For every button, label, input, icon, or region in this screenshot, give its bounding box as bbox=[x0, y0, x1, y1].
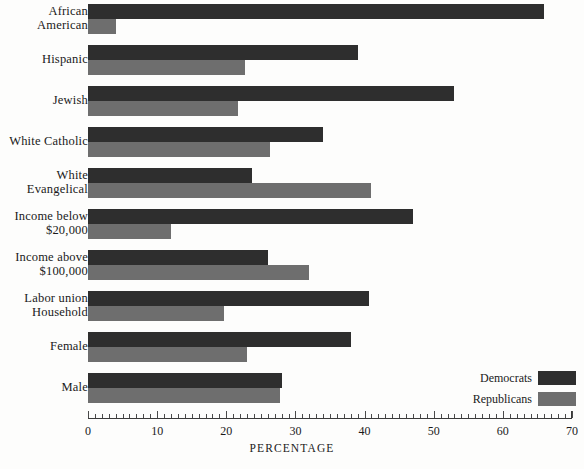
axis-tick-minor bbox=[475, 414, 476, 418]
x-axis: 010203040506070 bbox=[88, 418, 572, 419]
axis-tick-minor bbox=[109, 414, 110, 418]
bar-republicans bbox=[88, 224, 171, 239]
axis-tick-minor bbox=[496, 414, 497, 418]
bar-republicans bbox=[88, 388, 280, 403]
axis-tick-minor bbox=[468, 414, 469, 418]
bar-republicans bbox=[88, 306, 224, 321]
axis-tick-minor bbox=[544, 414, 545, 418]
axis-tick-minor bbox=[268, 414, 269, 418]
axis-tick-minor bbox=[385, 414, 386, 418]
axis-tick-minor bbox=[95, 414, 96, 418]
bar-democrats bbox=[88, 86, 454, 101]
category-label: Labor union Household bbox=[0, 291, 88, 319]
bar-democrats bbox=[88, 332, 351, 347]
category-row: Income above $100,000 bbox=[0, 249, 584, 285]
axis-tick-minor bbox=[171, 414, 172, 418]
axis-tick-minor bbox=[240, 414, 241, 418]
axis-tick-minor bbox=[517, 414, 518, 418]
category-label: Income above $100,000 bbox=[0, 250, 88, 278]
axis-tick-label: 70 bbox=[566, 424, 578, 439]
bar-republicans bbox=[88, 347, 247, 362]
axis-tick-major bbox=[365, 411, 366, 418]
axis-tick-minor bbox=[420, 414, 421, 418]
axis-tick-minor bbox=[192, 414, 193, 418]
bar-democrats bbox=[88, 45, 358, 60]
axis-tick-minor bbox=[212, 414, 213, 418]
legend-item[interactable]: Democrats bbox=[452, 370, 576, 388]
bar-democrats bbox=[88, 373, 282, 388]
axis-tick-minor bbox=[233, 414, 234, 418]
axis-tick-minor bbox=[102, 414, 103, 418]
axis-tick-minor bbox=[123, 414, 124, 418]
axis-tick-minor bbox=[489, 414, 490, 418]
axis-tick-major bbox=[157, 411, 158, 418]
axis-tick-major bbox=[503, 411, 504, 418]
axis-tick-minor bbox=[378, 414, 379, 418]
axis-tick-minor bbox=[461, 414, 462, 418]
axis-tick-major bbox=[295, 411, 296, 418]
axis-tick-minor bbox=[358, 414, 359, 418]
category-label: Female bbox=[0, 339, 88, 353]
axis-tick-minor bbox=[344, 414, 345, 418]
axis-tick-minor bbox=[323, 414, 324, 418]
axis-tick-minor bbox=[399, 414, 400, 418]
x-axis-title: PERCENTAGE bbox=[0, 442, 584, 454]
legend: DemocratsRepublicans bbox=[452, 370, 576, 412]
axis-tick-major bbox=[226, 411, 227, 418]
bar-republicans bbox=[88, 101, 238, 116]
category-label: Jewish bbox=[0, 93, 88, 107]
axis-tick-minor bbox=[337, 414, 338, 418]
axis-tick-minor bbox=[254, 414, 255, 418]
axis-tick-minor bbox=[454, 414, 455, 418]
axis-tick-minor bbox=[371, 414, 372, 418]
axis-tick-label: 10 bbox=[151, 424, 163, 439]
axis-tick-minor bbox=[482, 414, 483, 418]
axis-tick-label: 0 bbox=[85, 424, 91, 439]
category-row: Female bbox=[0, 331, 584, 367]
axis-tick-minor bbox=[178, 414, 179, 418]
axis-tick-minor bbox=[206, 414, 207, 418]
bar-democrats bbox=[88, 291, 369, 306]
axis-tick-label: 60 bbox=[497, 424, 509, 439]
axis-tick-minor bbox=[309, 414, 310, 418]
axis-tick-minor bbox=[199, 414, 200, 418]
category-label: Male bbox=[0, 380, 88, 394]
axis-tick-minor bbox=[448, 414, 449, 418]
bar-republicans bbox=[88, 183, 371, 198]
axis-tick-minor bbox=[150, 414, 151, 418]
axis-tick-minor bbox=[116, 414, 117, 418]
bar-democrats bbox=[88, 168, 252, 183]
axis-tick-minor bbox=[441, 414, 442, 418]
axis-tick-minor bbox=[510, 414, 511, 418]
axis-tick-minor bbox=[219, 414, 220, 418]
axis-tick-minor bbox=[247, 414, 248, 418]
category-row: Income below $20,000 bbox=[0, 208, 584, 244]
axis-tick-minor bbox=[143, 414, 144, 418]
category-label: African American bbox=[0, 4, 88, 32]
axis-tick-label: 30 bbox=[289, 424, 301, 439]
caption-fragment bbox=[4, 460, 404, 469]
axis-tick-minor bbox=[427, 414, 428, 418]
category-row: White Catholic bbox=[0, 126, 584, 162]
legend-swatch bbox=[538, 392, 576, 406]
axis-tick-minor bbox=[164, 414, 165, 418]
legend-swatch bbox=[538, 371, 576, 385]
axis-tick-minor bbox=[392, 414, 393, 418]
bar-democrats bbox=[88, 4, 544, 19]
axis-tick-minor bbox=[316, 414, 317, 418]
axis-tick-minor bbox=[185, 414, 186, 418]
category-row: Jewish bbox=[0, 85, 584, 121]
axis-tick-minor bbox=[551, 414, 552, 418]
category-label: White Evangelical bbox=[0, 168, 88, 196]
axis-tick-minor bbox=[531, 414, 532, 418]
legend-label: Democrats bbox=[480, 371, 532, 386]
axis-tick-minor bbox=[302, 414, 303, 418]
axis-tick-minor bbox=[282, 414, 283, 418]
axis-tick-minor bbox=[129, 414, 130, 418]
legend-item[interactable]: Republicans bbox=[452, 391, 576, 409]
axis-tick-minor bbox=[524, 414, 525, 418]
legend-label: Republicans bbox=[473, 392, 532, 407]
axis-tick-minor bbox=[406, 414, 407, 418]
axis-tick-minor bbox=[537, 414, 538, 418]
category-label: Income below $20,000 bbox=[0, 209, 88, 237]
